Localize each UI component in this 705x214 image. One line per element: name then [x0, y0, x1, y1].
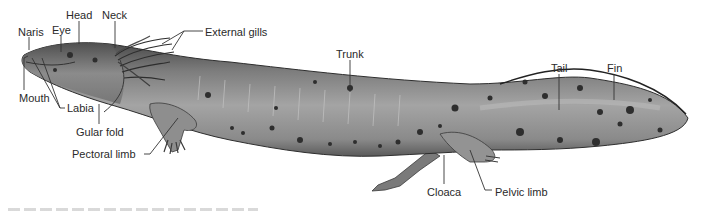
salamander-illustration: [0, 0, 705, 214]
label-external-gills: External gills: [205, 26, 267, 38]
label-gular-fold: Gular fold: [76, 126, 124, 138]
label-pectoral-limb: Pectoral limb: [72, 148, 136, 160]
anatomy-figure: Naris Eye Head Neck External gills Trunk…: [0, 0, 705, 214]
label-tail: Tail: [551, 62, 568, 74]
label-fin: Fin: [607, 62, 622, 74]
label-mouth: Mouth: [19, 92, 50, 104]
label-labia: Labia: [67, 102, 94, 114]
label-pelvic-limb: Pelvic limb: [495, 186, 548, 198]
label-naris: Naris: [18, 26, 44, 38]
label-cloaca: Cloaca: [427, 186, 461, 198]
label-neck: Neck: [102, 9, 127, 21]
label-head: Head: [66, 9, 92, 21]
label-trunk: Trunk: [336, 48, 364, 60]
label-eye: Eye: [52, 24, 71, 36]
caption-remnant: [8, 208, 258, 211]
